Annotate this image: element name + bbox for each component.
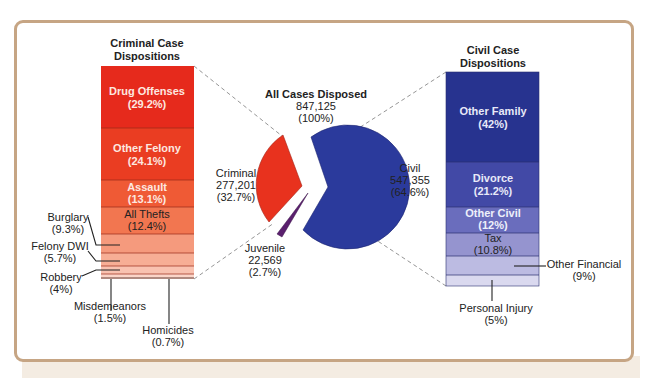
label-tax: Tax <box>484 232 502 244</box>
pct-drug-offenses: (29.2%) <box>128 98 167 110</box>
total-value: 847,125 <box>296 100 336 112</box>
pct-assault: (13.1%) <box>128 193 167 205</box>
label-other-financial: Other Financial <box>547 258 622 270</box>
segment-misdemeanors <box>101 274 194 277</box>
pct-tax: (10.8%) <box>474 244 513 256</box>
criminal-slice-pct: (32.7%) <box>217 191 256 203</box>
label-misdemeanors: Misdemeanors <box>74 300 147 312</box>
label-all-thefts: All Thefts <box>124 208 170 220</box>
pct-other-financial: (9%) <box>572 270 595 282</box>
criminal-slice-value: 277,201 <box>216 179 256 191</box>
pie-slice-criminal <box>256 135 302 222</box>
pct-divorce: (21.2%) <box>474 185 513 197</box>
pct-burglary: (9.3%) <box>52 223 84 235</box>
label-felony-dwi: Felony DWI <box>31 240 88 252</box>
label-robbery: Robbery <box>40 271 82 283</box>
juvenile-slice-value: 22,569 <box>248 254 282 266</box>
civil-title-line1: Civil Case <box>467 44 520 56</box>
label-burglary: Burglary <box>48 211 89 223</box>
civil-slice-label: Civil <box>400 162 421 174</box>
pct-robbery: (4%) <box>49 283 72 295</box>
criminal-title-line1: Criminal Case <box>110 37 183 49</box>
pct-felony-dwi: (5.7%) <box>44 252 76 264</box>
label-other-felony: Other Felony <box>113 142 182 154</box>
label-homicides: Homicides <box>142 324 194 336</box>
pct-other-civil: (12%) <box>478 219 508 231</box>
pie-chart <box>256 125 409 249</box>
segment-felony-dwi <box>101 253 194 266</box>
total-pct: (100%) <box>298 112 333 124</box>
segment-drug-offenses <box>101 66 194 128</box>
pct-homicides: (0.7%) <box>152 336 184 348</box>
label-assault: Assault <box>127 181 167 193</box>
juvenile-slice-pct: (2.7%) <box>249 266 281 278</box>
label-drug-offenses: Drug Offenses <box>109 85 185 97</box>
segment-homicides <box>101 277 194 279</box>
pct-other-family: (42%) <box>478 118 508 130</box>
chart-svg: Criminal Case Dispositions Drug Offenses… <box>0 0 654 378</box>
juvenile-slice-label: Juvenile <box>245 242 285 254</box>
civil-title-line2: Dispositions <box>460 57 526 69</box>
label-other-family: Other Family <box>459 105 527 117</box>
criminal-title-line2: Dispositions <box>114 50 180 62</box>
pct-all-thefts: (12.4%) <box>128 220 167 232</box>
pct-personal-injury: (5%) <box>484 314 507 326</box>
label-personal-injury: Personal Injury <box>459 302 533 314</box>
label-divorce: Divorce <box>473 172 513 184</box>
label-other-civil: Other Civil <box>465 207 521 219</box>
segment-other-felony <box>101 128 194 180</box>
total-label: All Cases Disposed <box>265 88 367 100</box>
criminal-slice-label: Criminal <box>216 167 256 179</box>
pct-misdemeanors: (1.5%) <box>94 312 126 324</box>
civil-slice-pct: (64.6%) <box>391 186 430 198</box>
civil-slice-value: 547,355 <box>390 174 430 186</box>
segment-other-family <box>446 72 539 162</box>
pct-other-felony: (24.1%) <box>128 155 167 167</box>
segment-burglary <box>101 234 194 253</box>
